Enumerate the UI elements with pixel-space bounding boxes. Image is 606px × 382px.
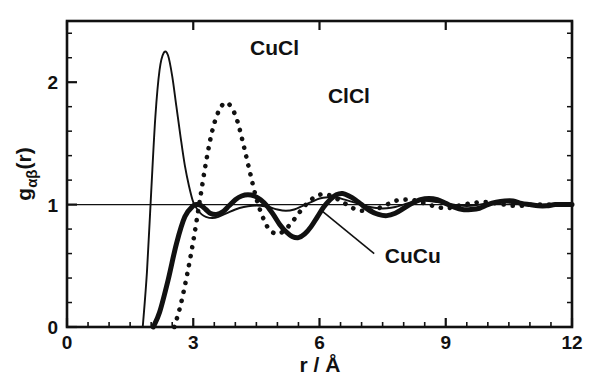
x-tick-label: 3 bbox=[188, 332, 199, 353]
series-label-clcl: ClCl bbox=[328, 84, 370, 107]
y-tick-label: 0 bbox=[47, 317, 58, 338]
y-axis-title-suffix: (r) bbox=[12, 147, 35, 169]
y-tick-label: 1 bbox=[47, 195, 58, 216]
y-tick-label: 2 bbox=[47, 72, 58, 93]
figure-container: 036912 012 CuClClClCuCu r / Å gαβ(r) bbox=[0, 0, 606, 382]
y-axis-title-base: g bbox=[12, 188, 35, 201]
x-tick-label: 0 bbox=[62, 332, 73, 353]
x-axis-title: r / Å bbox=[300, 353, 341, 376]
chart-background bbox=[0, 0, 606, 382]
x-tick-label: 12 bbox=[561, 332, 582, 353]
x-tick-label: 6 bbox=[314, 332, 325, 353]
series-label-cucl: CuCl bbox=[250, 36, 299, 59]
series-label-cucu: CuCu bbox=[385, 244, 441, 267]
y-axis-title-subscript: αβ bbox=[23, 169, 40, 187]
x-tick-label: 9 bbox=[440, 332, 451, 353]
radial-distribution-function-chart: 036912 012 CuClClClCuCu r / Å gαβ(r) bbox=[0, 0, 606, 382]
